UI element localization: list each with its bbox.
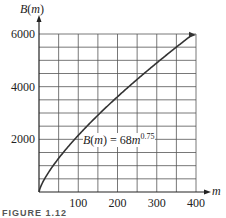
tick-labels: 100200300400200040006000 bbox=[11, 27, 205, 210]
x-axis-arrow-icon bbox=[204, 190, 211, 195]
axes bbox=[37, 15, 212, 195]
data-curve bbox=[39, 35, 192, 192]
svg-text:100: 100 bbox=[69, 196, 87, 210]
svg-text:6000: 6000 bbox=[11, 27, 35, 41]
svg-text:200: 200 bbox=[109, 196, 127, 210]
equation-annotation: B(m) = 68m0.75 bbox=[83, 132, 155, 147]
svg-text:400: 400 bbox=[187, 196, 205, 210]
y-axis-arrow-icon bbox=[37, 15, 42, 22]
y-axis-label: B(m) bbox=[20, 2, 44, 16]
x-axis-label: m bbox=[212, 184, 221, 198]
svg-text:2000: 2000 bbox=[11, 132, 35, 146]
figure-caption: FIGURE 1.12 bbox=[2, 208, 67, 218]
svg-text:4000: 4000 bbox=[11, 80, 35, 94]
grid bbox=[39, 34, 196, 192]
svg-text:300: 300 bbox=[148, 196, 166, 210]
power-function-chart: 100200300400200040006000 B(m) m B(m) = 6… bbox=[0, 0, 226, 218]
curve-arrowhead-icon bbox=[189, 32, 196, 38]
